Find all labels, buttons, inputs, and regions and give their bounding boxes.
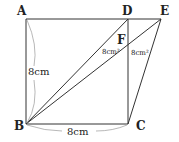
dimension-arc-bc-left — [27, 125, 62, 131]
segment-ce — [128, 19, 161, 124]
dimension-arc-ab — [27, 20, 35, 66]
point-label-f: F — [117, 33, 126, 47]
point-label-c: C — [136, 119, 146, 133]
point-label-e: E — [160, 4, 169, 18]
area-label-left: 8cm² — [102, 48, 120, 56]
point-label-a: A — [16, 4, 27, 18]
geometry-diagram: A D E B C F 8cm 8cm 8cm² 8cm² — [0, 0, 179, 142]
dimension-arc-bc-right — [96, 125, 127, 131]
point-label-d: D — [122, 4, 132, 18]
point-label-b: B — [14, 119, 24, 133]
area-label-right: 8cm² — [131, 49, 149, 57]
side-length-bc: 8cm — [67, 126, 89, 137]
side-length-ab: 8cm — [28, 66, 50, 77]
